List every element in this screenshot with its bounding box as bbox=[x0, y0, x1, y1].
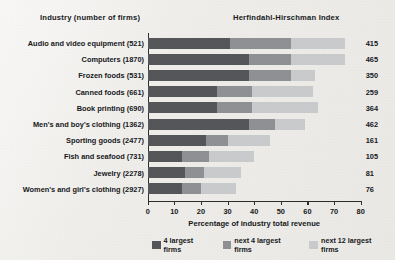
x-tick-label-40: 40 bbox=[250, 207, 258, 216]
bar-segment bbox=[252, 86, 313, 97]
x-tick-70 bbox=[334, 201, 335, 205]
bar-segment bbox=[148, 102, 217, 113]
category-label: Computers (1870) bbox=[82, 55, 144, 64]
category-label: Men's and boy's clothing (1362) bbox=[33, 120, 144, 129]
industry-column-header: Industry (number of firms) bbox=[40, 13, 140, 22]
bar-segment bbox=[249, 54, 292, 65]
bar-segment bbox=[148, 167, 185, 178]
hhi-value-label: 350 bbox=[366, 71, 378, 80]
category-label-list: Audio and video equipment (521)Computers… bbox=[0, 33, 144, 201]
hhi-value-label: 76 bbox=[366, 185, 374, 194]
category-label: Women's and girl's clothing (2927) bbox=[23, 185, 144, 194]
bar-segment bbox=[252, 102, 319, 113]
chart-container: Industry (number of firms) Herfindahl-Hi… bbox=[0, 0, 395, 260]
legend-label: next 4 largest firms bbox=[234, 236, 297, 254]
bar-segment bbox=[182, 151, 209, 162]
bar-segment bbox=[148, 38, 231, 49]
x-tick-60 bbox=[307, 201, 308, 205]
bar-segment bbox=[249, 70, 292, 81]
bar-segment bbox=[275, 119, 304, 130]
bar-segment bbox=[148, 54, 249, 65]
x-tick-label-30: 30 bbox=[223, 207, 231, 216]
x-tick-label-70: 70 bbox=[330, 207, 338, 216]
legend-item: 4 largest firms bbox=[152, 236, 211, 254]
x-tick-label-50: 50 bbox=[277, 207, 285, 216]
bar-segment bbox=[148, 86, 217, 97]
bar-segment bbox=[249, 119, 276, 130]
hhi-value-label: 81 bbox=[366, 169, 374, 178]
category-label: Jewelry (2278) bbox=[93, 169, 144, 178]
bar-segment bbox=[148, 135, 207, 146]
bar-segment bbox=[217, 86, 252, 97]
bar-segment bbox=[230, 38, 291, 49]
x-tick-30 bbox=[228, 201, 229, 205]
hhi-value-label: 105 bbox=[366, 152, 378, 161]
x-tick-label-80: 80 bbox=[357, 207, 365, 216]
bar-segment bbox=[291, 54, 344, 65]
bar-segment bbox=[148, 119, 249, 130]
legend-label: next 12 largest firms bbox=[321, 236, 388, 254]
bar-segment bbox=[206, 135, 227, 146]
bar-segment bbox=[148, 151, 183, 162]
bar-segment bbox=[201, 183, 236, 194]
bar-segment bbox=[148, 183, 183, 194]
x-tick-40 bbox=[254, 201, 255, 205]
hhi-value-label: 462 bbox=[366, 120, 378, 129]
bar-segment bbox=[148, 70, 249, 81]
legend-item: next 4 largest firms bbox=[223, 236, 298, 254]
bar-segment bbox=[291, 38, 344, 49]
bar-segment bbox=[185, 167, 204, 178]
hhi-value-label: 415 bbox=[366, 39, 378, 48]
legend-swatch bbox=[309, 241, 318, 249]
legend-label: 4 largest firms bbox=[164, 236, 211, 254]
x-tick-80 bbox=[361, 201, 362, 205]
category-label: Fish and seafood (731) bbox=[64, 152, 144, 161]
category-label: Book printing (690) bbox=[77, 104, 144, 113]
hhi-value-label: 465 bbox=[366, 55, 378, 64]
x-tick-10 bbox=[174, 201, 175, 205]
bar-segment bbox=[217, 102, 252, 113]
legend-swatch bbox=[152, 241, 161, 249]
category-label: Canned foods (661) bbox=[75, 88, 144, 97]
x-tick-0 bbox=[148, 201, 149, 205]
hhi-value-label: 364 bbox=[366, 104, 378, 113]
hhi-column-header: Herfindahl-Hirschman Index bbox=[233, 13, 339, 22]
legend-item: next 12 largest firms bbox=[309, 236, 388, 254]
hhi-value-label: 161 bbox=[366, 136, 378, 145]
bar-segment bbox=[204, 167, 241, 178]
category-label: Frozen foods (531) bbox=[78, 71, 144, 80]
x-tick-label-20: 20 bbox=[197, 207, 205, 216]
bar-segment bbox=[228, 135, 271, 146]
x-tick-50 bbox=[281, 201, 282, 205]
x-tick-label-60: 60 bbox=[303, 207, 311, 216]
chart-legend: 4 largest firmsnext 4 largest firmsnext … bbox=[152, 236, 395, 254]
bar-segment bbox=[209, 151, 254, 162]
plot-area: 01020304050607080 4154653502593644621611… bbox=[148, 33, 361, 201]
x-tick-label-0: 0 bbox=[146, 207, 150, 216]
x-axis-title: Percentage of industry total revenue bbox=[188, 219, 320, 228]
x-tick-20 bbox=[201, 201, 202, 205]
bar-segment bbox=[182, 183, 201, 194]
bar-segment bbox=[291, 70, 315, 81]
category-label: Audio and video equipment (521) bbox=[28, 39, 144, 48]
hhi-value-label: 259 bbox=[366, 88, 378, 97]
category-label: Sporting goods (2477) bbox=[66, 136, 144, 145]
x-tick-label-10: 10 bbox=[170, 207, 178, 216]
legend-swatch bbox=[223, 241, 232, 249]
